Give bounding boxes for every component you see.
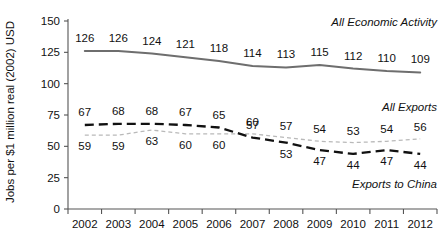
value-label-all-economic-activity: 118 <box>210 42 228 54</box>
y-tick-label-150: 150 <box>41 15 60 27</box>
value-label-exports-to-china: 67 <box>179 106 192 118</box>
x-tick-label-2003: 2003 <box>106 218 132 230</box>
value-label-all-exports: 54 <box>380 123 393 135</box>
value-label-all-exports: 59 <box>112 140 125 152</box>
value-label-exports-to-china: 53 <box>280 148 293 160</box>
value-label-all-economic-activity: 109 <box>411 53 430 65</box>
x-tick-label-2008: 2008 <box>273 218 299 230</box>
series-label-exports-to-china: Exports to China <box>352 178 437 190</box>
y-tick-label-25: 25 <box>47 172 60 184</box>
x-tick-label-2012: 2012 <box>407 218 433 230</box>
value-label-all-economic-activity: 124 <box>142 35 162 47</box>
x-tick-label-2010: 2010 <box>340 218 366 230</box>
x-tick-label-2002: 2002 <box>72 218 98 230</box>
y-tick-label-125: 125 <box>41 46 60 58</box>
x-axis: 2002200320042005200620072008200920102011… <box>68 209 437 230</box>
value-label-exports-to-china: 47 <box>380 155 393 167</box>
value-label-all-exports: 59 <box>78 140 91 152</box>
x-tick-label-2006: 2006 <box>206 218 232 230</box>
value-label-all-exports: 63 <box>145 135 158 147</box>
value-label-exports-to-china: 65 <box>213 109 226 121</box>
y-axis-title: Jobs per $1 million real (2002) USD <box>4 21 16 203</box>
value-label-all-economic-activity: 113 <box>277 48 295 60</box>
value-label-all-exports: 60 <box>213 139 226 151</box>
value-label-all-economic-activity: 112 <box>344 50 362 62</box>
value-label-all-exports: 56 <box>414 121 427 133</box>
y-axis: 0255075100125150 <box>41 15 68 215</box>
value-label-exports-to-china: 47 <box>313 155 326 167</box>
value-label-all-economic-activity: 121 <box>176 38 195 50</box>
value-label-all-economic-activity: 126 <box>75 32 94 44</box>
value-label-all-exports: 54 <box>313 123 326 135</box>
x-tick-label-2011: 2011 <box>374 218 399 230</box>
line-chart: Jobs per $1 million real (2002) USD 0255… <box>0 0 442 243</box>
y-tick-label-75: 75 <box>47 109 60 121</box>
value-labels-all-economic-activity: 126126124121118114113115112110109 <box>75 32 430 65</box>
x-tick-label-2005: 2005 <box>173 218 199 230</box>
series-line-all-exports <box>85 130 420 143</box>
value-label-exports-to-china: 44 <box>414 159 427 171</box>
chart-container: Jobs per $1 million real (2002) USD 0255… <box>0 0 442 243</box>
x-tick-label-2007: 2007 <box>240 218 266 230</box>
value-label-exports-to-china: 44 <box>347 159 360 171</box>
value-label-exports-to-china: 68 <box>112 105 125 117</box>
series-label-all-economic-activity: All Economic Activity <box>330 16 438 28</box>
value-label-exports-to-china: 68 <box>145 105 158 117</box>
value-label-all-economic-activity: 110 <box>378 52 396 64</box>
y-tick-label-0: 0 <box>54 203 60 215</box>
y-tick-label-100: 100 <box>41 78 60 90</box>
value-label-all-exports: 53 <box>347 125 360 137</box>
series-label-all-exports: All Exports <box>381 101 437 113</box>
value-label-all-economic-activity: 126 <box>109 32 128 44</box>
value-label-exports-to-china: 67 <box>78 106 91 118</box>
value-label-all-exports: 60 <box>246 116 259 128</box>
x-tick-label-2009: 2009 <box>307 218 333 230</box>
value-label-all-exports: 60 <box>179 139 192 151</box>
y-tick-label-50: 50 <box>47 140 60 152</box>
value-label-all-economic-activity: 115 <box>310 46 328 58</box>
value-label-all-economic-activity: 114 <box>243 47 262 59</box>
x-tick-label-2004: 2004 <box>139 218 165 230</box>
value-label-all-exports: 57 <box>280 120 293 132</box>
